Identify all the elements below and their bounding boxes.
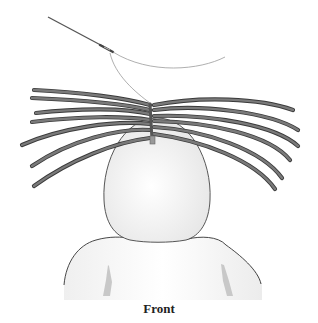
illustration: Front [0,0,318,323]
thread [110,52,225,103]
head [104,118,210,242]
diagram-svg [0,0,318,323]
shoulders [64,237,262,300]
figure-caption: Front [0,301,318,317]
needle [48,17,113,52]
